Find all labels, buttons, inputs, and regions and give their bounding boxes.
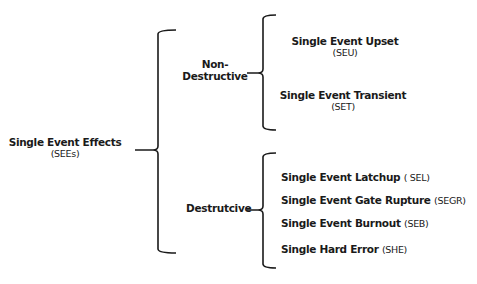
leaf-item-set: Single Event Transient (SET)	[268, 89, 418, 112]
category-label-line1: Non-	[180, 58, 250, 70]
leaf-label: Single Hard Error	[281, 243, 379, 255]
leaf-label: Single Event Upset	[275, 35, 415, 47]
leaf-item-segr: Single Event Gate Rupture (SEGR)	[281, 194, 466, 206]
category-destructive: Destrutcive	[186, 202, 251, 214]
leaf-abbr: (SEGR)	[434, 195, 466, 206]
leaf-item-she: Single Hard Error (SHE)	[281, 243, 407, 255]
leaf-label: Single Event Burnout	[281, 217, 401, 229]
leaf-item-seb: Single Event Burnout (SEB)	[281, 217, 429, 229]
leaf-abbr: (SHE)	[382, 244, 407, 255]
leaf-abbr: (SEU)	[275, 47, 415, 58]
leaf-item-seu: Single Event Upset (SEU)	[275, 35, 415, 58]
root-label: Single Event Effects	[4, 136, 126, 148]
destructive-brace	[247, 153, 276, 268]
leaf-abbr: (SET)	[268, 101, 418, 112]
root-brace	[135, 30, 176, 253]
non-destructive-brace	[247, 15, 276, 130]
leaf-abbr: (SEB)	[404, 218, 428, 229]
leaf-item-sel: Single Event Latchup ( SEL)	[281, 171, 430, 183]
root-node: Single Event Effects (SEEs)	[4, 136, 126, 159]
leaf-label: Single Event Latchup	[281, 171, 400, 183]
leaf-abbr: ( SEL)	[404, 172, 430, 183]
category-label-line2: Destructive	[180, 70, 250, 82]
category-non-destructive: Non- Destructive	[180, 58, 250, 82]
leaf-label: Single Event Gate Rupture	[281, 194, 431, 206]
leaf-label: Single Event Transient	[268, 89, 418, 101]
root-abbr: (SEEs)	[4, 148, 126, 159]
